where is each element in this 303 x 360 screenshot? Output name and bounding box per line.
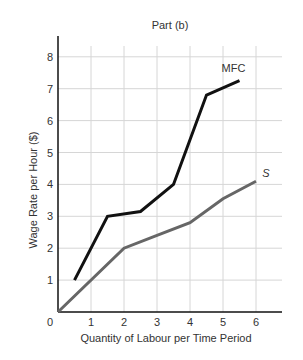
axes xyxy=(58,36,282,312)
x-tick-label: 5 xyxy=(220,316,226,328)
y-axis-label: Wage Rate per Hour ($) xyxy=(27,132,39,249)
x-axis-label: Quantity of Labour per Time Period xyxy=(80,332,251,344)
y-tick-label: 2 xyxy=(47,242,53,254)
tick-labels: 12345678123456 xyxy=(47,51,259,328)
x-tick-label: 2 xyxy=(121,316,127,328)
x-tick-label: 1 xyxy=(88,316,94,328)
series-label-s: S xyxy=(262,167,270,179)
chart-title: Part (b) xyxy=(152,19,189,31)
chart: Part (b) 12345678123456 MFCS Quantity of… xyxy=(0,0,303,360)
x-tick-label: 3 xyxy=(154,316,160,328)
y-tick-label: 8 xyxy=(47,51,53,63)
y-tick-label: 4 xyxy=(47,178,53,190)
y-tick-label: 6 xyxy=(47,115,53,127)
origin-label: 0 xyxy=(47,316,53,328)
y-tick-label: 3 xyxy=(47,210,53,222)
x-tick-label: 6 xyxy=(253,316,259,328)
series-lines: MFCS xyxy=(58,62,270,312)
y-tick-label: 7 xyxy=(47,83,53,95)
y-tick-label: 5 xyxy=(47,147,53,159)
y-tick-label: 1 xyxy=(47,274,53,286)
grid xyxy=(58,46,282,312)
series-label-mfc: MFC xyxy=(222,62,246,74)
x-tick-label: 4 xyxy=(187,316,193,328)
